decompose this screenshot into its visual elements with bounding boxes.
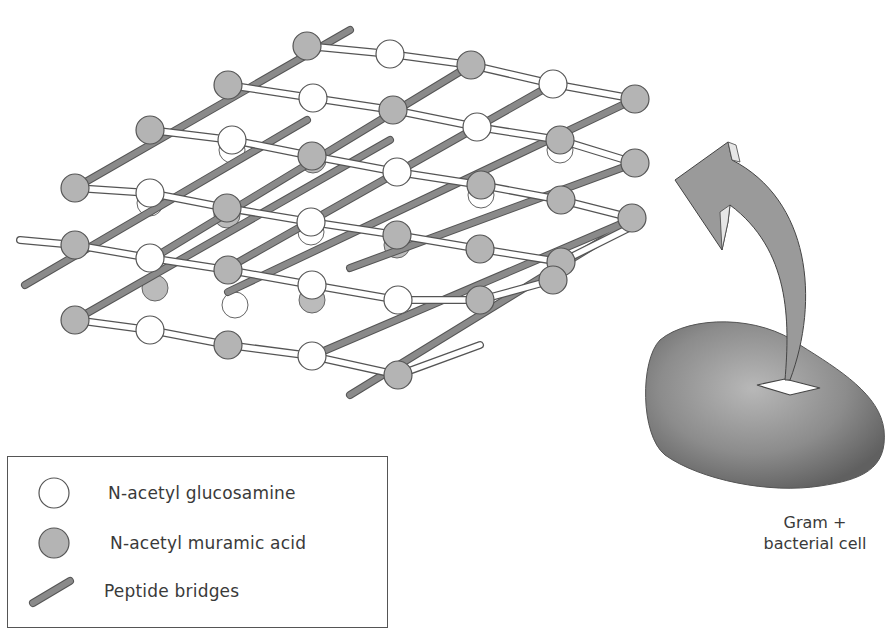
legend-label-nag: N-acetyl glucosamine [108, 483, 296, 503]
cell-caption-line2: bacterial cell [745, 533, 885, 554]
gray-sphere-icon [8, 525, 98, 561]
white-sphere-icon [8, 475, 98, 511]
cell-caption: Gram + bacterial cell [745, 512, 885, 554]
legend-item-nam: N-acetyl muramic acid [8, 525, 306, 561]
legend-item-nag: N-acetyl glucosamine [8, 475, 296, 511]
bacterial-cell [646, 322, 885, 488]
legend-label-nam: N-acetyl muramic acid [110, 533, 306, 553]
gray-rod-icon [8, 571, 98, 611]
legend-label-peptide: Peptide bridges [104, 581, 239, 601]
legend-item-peptide: Peptide bridges [8, 571, 239, 611]
legend-box: N-acetyl glucosamine N-acetyl muramic ac… [7, 456, 388, 628]
cell-caption-line1: Gram + [745, 512, 885, 533]
